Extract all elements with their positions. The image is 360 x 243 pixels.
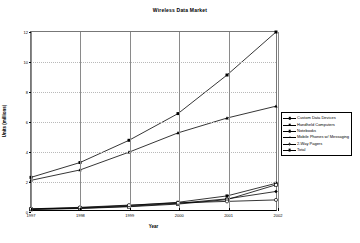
legend-item-label: 2-Way Pagers: [297, 142, 322, 146]
series-mobile-phones-w-messaging: [29, 104, 277, 181]
y-tick-label: 8: [26, 90, 28, 95]
chart-container: Wireless Data Market Units (millions) 02…: [0, 0, 360, 243]
legend-item-label: Notebooks: [297, 129, 316, 133]
x-tick-mark: [31, 208, 32, 211]
series-line: [31, 191, 276, 209]
category-vline: [130, 32, 131, 210]
x-tick-mark: [179, 208, 180, 211]
y-tick-label: 10: [24, 60, 28, 65]
legend-marker-icon: [283, 134, 296, 140]
legend-marker-icon: [283, 128, 296, 134]
x-tick-label: 2001: [224, 213, 233, 218]
legend-marker-icon: [283, 122, 296, 128]
y-tick-label: 4: [26, 150, 28, 155]
legend-item-label: Handheld Computers: [297, 123, 335, 127]
x-tick-label: 1998: [76, 213, 85, 218]
category-vline: [179, 32, 180, 210]
plot-area: 024681012199719981999200020012002: [30, 31, 277, 211]
x-tick-mark: [229, 208, 230, 211]
gridline: [31, 92, 276, 93]
gridline: [31, 152, 276, 153]
legend-marker-icon: [283, 141, 296, 147]
category-vline: [278, 32, 279, 210]
category-vline: [229, 32, 230, 210]
x-axis-title: Year: [30, 224, 277, 229]
gridline: [31, 182, 276, 183]
series-line: [31, 32, 276, 177]
chart-legend: Custom Data DevicesHandheld ComputersNot…: [281, 112, 352, 156]
category-vline: [80, 32, 81, 210]
x-tick-label: 1999: [125, 213, 134, 218]
gridline: [31, 122, 276, 123]
y-tick-label: 12: [24, 30, 28, 35]
x-tick-label: 2002: [274, 213, 283, 218]
legend-marker-icon: [283, 147, 296, 153]
legend-item-label: Mobile Phones w/ Messaging: [297, 135, 349, 139]
x-tick-mark: [278, 208, 279, 211]
x-tick-mark: [80, 208, 81, 211]
legend-item-total[interactable]: Total: [283, 147, 349, 153]
chart-title: Wireless Data Market: [0, 7, 360, 13]
x-tick-label: 2000: [175, 213, 184, 218]
series-total: [30, 31, 278, 179]
y-tick-label: 6: [26, 120, 28, 125]
gridline: [31, 62, 276, 63]
category-vline: [31, 32, 32, 210]
x-tick-mark: [130, 208, 131, 211]
legend-marker-icon: [283, 115, 296, 121]
legend-item-label: Total: [297, 148, 305, 152]
x-tick-label: 1997: [27, 213, 36, 218]
y-tick-label: 2: [26, 180, 28, 185]
legend-item-label: Custom Data Devices: [297, 116, 336, 120]
series-handheld-computers: [30, 182, 278, 211]
y-axis-title: Units (millions): [2, 105, 7, 138]
series-line: [31, 200, 276, 209]
series-line: [31, 106, 276, 180]
series-layer: [31, 32, 276, 210]
